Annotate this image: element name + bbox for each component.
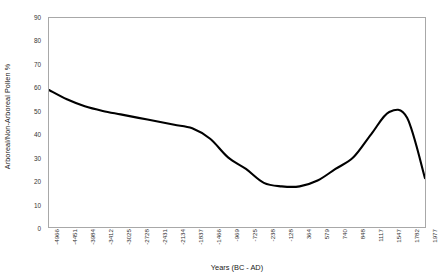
x-tick-label: -3984 [89, 229, 96, 245]
x-tick-label: -238 [269, 229, 276, 241]
x-tick-label: -2728 [143, 229, 150, 245]
y-tick-label: 60 [34, 84, 41, 91]
y-tick-label: 50 [34, 107, 41, 114]
y-axis-tick-labels: 9080706050403020100 [17, 0, 44, 240]
x-tick-label: 740 [341, 229, 348, 239]
x-tick-label: 1977 [431, 229, 438, 243]
x-axis-title: Years (BC - AD) [48, 263, 426, 272]
y-tick-label: 0 [37, 225, 41, 232]
plot-area [48, 17, 426, 228]
y-axis-title: Arboreal/Non-Arboreal Pollen % [0, 0, 16, 232]
x-tick-label: -969 [233, 229, 240, 241]
y-tick-label: 10 [34, 201, 41, 208]
x-tick-label: -1837 [197, 229, 204, 245]
x-tick-label: -1466 [215, 229, 222, 245]
pollen-percentage-line-chart: Arboreal/Non-Arboreal Pollen % 908070605… [0, 0, 439, 279]
x-tick-label: -3412 [107, 229, 114, 245]
y-tick-label: 70 [34, 60, 41, 67]
x-tick-label: -128 [287, 229, 294, 241]
x-tick-label: -725 [251, 229, 258, 241]
x-tick-label: 1117 [377, 229, 384, 242]
x-tick-label: 1547 [395, 229, 402, 243]
x-axis-tick-labels: -4966-4451-3984-3412-3025-2728-2431-2134… [48, 229, 426, 263]
x-tick-label: -4451 [71, 229, 78, 245]
y-tick-label: 30 [34, 154, 41, 161]
plot-svg [49, 18, 425, 227]
y-tick-label: 40 [34, 131, 41, 138]
data-series-line [49, 90, 425, 187]
y-tick-label: 80 [34, 37, 41, 44]
x-tick-label: -3025 [125, 229, 132, 245]
x-tick-label: 364 [305, 229, 312, 239]
y-tick-label: 20 [34, 178, 41, 185]
x-tick-label: -4966 [53, 229, 60, 245]
x-tick-label: 848 [359, 229, 366, 239]
x-tick-label: -2134 [179, 229, 186, 245]
x-tick-label: -2431 [161, 229, 168, 245]
x-tick-label: 1782 [413, 229, 420, 243]
x-tick-label: 579 [323, 229, 330, 239]
y-axis-title-label: Arboreal/Non-Arboreal Pollen % [4, 63, 13, 168]
y-tick-label: 90 [34, 14, 41, 21]
